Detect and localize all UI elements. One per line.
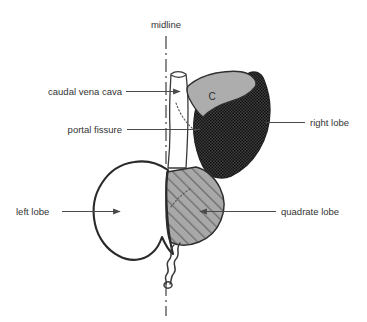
label-caudal-vena-cava-text: caudal vena cava bbox=[48, 86, 123, 97]
label-quadrate-lobe-text: quadrate lobe bbox=[281, 206, 339, 217]
bile-duct-shape bbox=[164, 243, 180, 288]
label-portal-fissure: portal fissure bbox=[68, 124, 200, 135]
label-left-lobe-text: left lobe bbox=[16, 206, 49, 217]
label-caudal-vena-cava: caudal vena cava bbox=[48, 86, 180, 97]
caudate-lobe-marker: C bbox=[208, 91, 215, 102]
label-right-lobe: right lobe bbox=[266, 117, 349, 128]
label-midline-text: midline bbox=[151, 19, 181, 30]
label-midline: midline bbox=[151, 19, 181, 30]
label-portal-fissure-text: portal fissure bbox=[68, 124, 122, 135]
quadrate-lobe-shape bbox=[166, 167, 224, 245]
label-right-lobe-text: right lobe bbox=[310, 117, 349, 128]
diagram-canvas: C midline caudal vena cava bbox=[0, 0, 367, 322]
liver-diagram-figure: C midline caudal vena cava bbox=[0, 0, 367, 322]
label-left-lobe: left lobe bbox=[16, 206, 120, 217]
left-lobe-shape bbox=[94, 161, 173, 259]
